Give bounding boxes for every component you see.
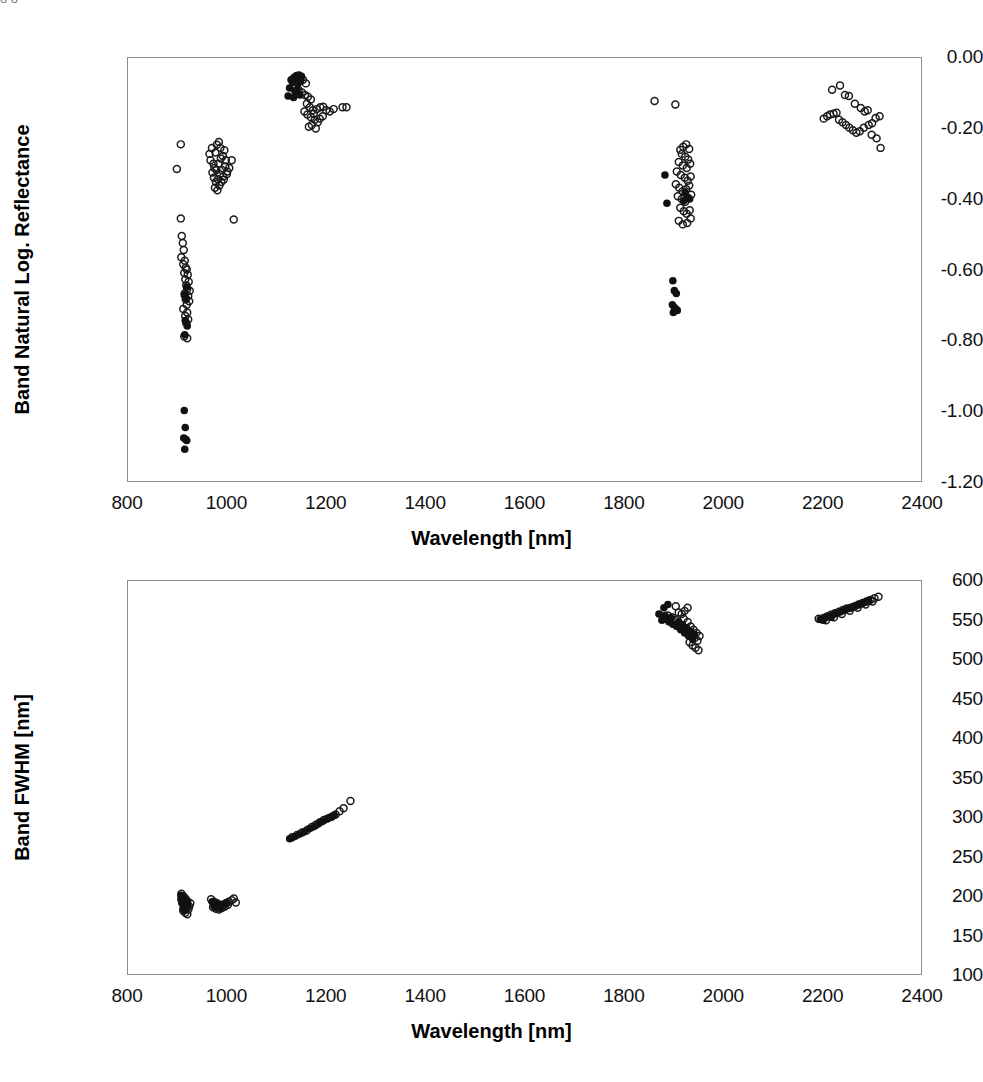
data-point-open — [651, 98, 658, 105]
data-point-open — [179, 240, 186, 247]
x-tick-label: 800 — [111, 985, 142, 1007]
x-tick-label: 1600 — [504, 492, 545, 514]
x-tick-label: 1200 — [305, 985, 346, 1007]
y-axis-title-top: Band Natural Log. Reflectance — [11, 37, 34, 502]
x-tick-label: 1000 — [206, 985, 247, 1007]
x-tick-label: 1400 — [404, 492, 445, 514]
y-tick-label: 150 — [864, 925, 983, 947]
data-point-open — [177, 215, 184, 222]
data-point-open — [180, 247, 187, 254]
y-tick-label: -1.20 — [864, 471, 983, 493]
x-axis-title-top: Wavelength [nm] — [0, 527, 983, 550]
data-point-filled — [664, 601, 672, 609]
data-point-open — [829, 86, 836, 93]
data-point-open — [230, 216, 237, 223]
data-point-filled — [184, 902, 192, 910]
y-tick-label: 550 — [864, 609, 983, 631]
data-point-filled — [183, 322, 191, 330]
y-tick-label: -0.60 — [864, 259, 983, 281]
chart-bottom-fwhm: 600550500450400350300250200150100 800100… — [0, 555, 983, 1075]
plot-area-top — [127, 57, 922, 482]
data-point-filled — [180, 407, 188, 415]
data-point-filled — [691, 631, 699, 639]
data-point-filled — [686, 195, 694, 203]
y-tick-label: 350 — [864, 767, 983, 789]
y-tick-label: 400 — [864, 727, 983, 749]
data-point-filled — [181, 331, 189, 339]
x-tick-label: 2000 — [703, 985, 744, 1007]
y-tick-label: 500 — [864, 648, 983, 670]
data-point-filled — [183, 283, 191, 291]
y-tick-label: -1.00 — [864, 400, 983, 422]
data-point-filled — [181, 445, 189, 453]
x-tick-label: 1600 — [504, 985, 545, 1007]
x-tick-label: 1800 — [603, 492, 644, 514]
data-point-filled — [658, 617, 666, 625]
data-point-open — [347, 798, 354, 805]
data-point-open — [177, 141, 184, 148]
y-tick-label: -0.20 — [864, 117, 983, 139]
y-tick-label: -0.40 — [864, 188, 983, 210]
data-point-filled — [223, 899, 231, 907]
x-tick-label: 1800 — [603, 985, 644, 1007]
clipped-header-text: o o — [0, 0, 983, 5]
x-tick-label: 1000 — [206, 492, 247, 514]
y-tick-label: 300 — [864, 806, 983, 828]
scatter-layer-top — [128, 58, 921, 481]
figure-page: o o 0.00-0.20-0.40-0.60-0.80-1.00-1.20 8… — [0, 0, 983, 1082]
y-tick-label: 450 — [864, 688, 983, 710]
data-point-filled — [673, 290, 681, 298]
data-point-filled — [297, 77, 305, 85]
y-tick-label: 600 — [864, 569, 983, 591]
data-point-open — [672, 101, 679, 108]
data-point-filled — [290, 94, 298, 102]
data-point-filled — [296, 91, 304, 99]
data-point-filled — [182, 295, 190, 303]
x-tick-label: 1400 — [404, 985, 445, 1007]
data-point-filled — [819, 617, 827, 625]
data-point-filled — [674, 307, 682, 315]
data-point-open — [178, 233, 185, 240]
data-point-filled — [661, 171, 669, 179]
x-tick-label: 1200 — [305, 492, 346, 514]
y-tick-label: 0.00 — [864, 46, 983, 68]
x-tick-label: 2400 — [901, 985, 942, 1007]
scatter-layer-bottom — [128, 581, 921, 974]
plot-area-bottom — [127, 580, 922, 975]
data-point-filled — [181, 424, 189, 432]
data-point-filled — [330, 811, 338, 819]
x-tick-label: 2200 — [802, 985, 843, 1007]
x-tick-label: 2200 — [802, 492, 843, 514]
x-axis-title-bottom: Wavelength [nm] — [0, 1020, 983, 1043]
data-point-open — [173, 166, 180, 173]
data-point-open — [877, 144, 884, 151]
data-point-filled — [663, 199, 671, 207]
y-tick-label: -0.80 — [864, 329, 983, 351]
data-point-filled — [865, 597, 873, 605]
y-axis-title-bottom: Band FWHM [nm] — [11, 560, 34, 995]
y-tick-label: 250 — [864, 846, 983, 868]
x-tick-label: 2000 — [703, 492, 744, 514]
data-point-open — [837, 82, 844, 89]
x-tick-label: 800 — [111, 492, 142, 514]
y-tick-label: 200 — [864, 885, 983, 907]
data-point-filled — [827, 613, 835, 621]
data-point-filled — [216, 904, 224, 912]
data-point-filled — [669, 277, 677, 285]
chart-top-reflectance: 0.00-0.20-0.40-0.60-0.80-1.00-1.20 80010… — [0, 20, 983, 530]
data-point-open — [672, 603, 679, 610]
data-point-filled — [177, 896, 185, 904]
x-tick-label: 2400 — [901, 492, 942, 514]
y-tick-label: 100 — [864, 964, 983, 986]
data-point-filled — [183, 437, 191, 445]
